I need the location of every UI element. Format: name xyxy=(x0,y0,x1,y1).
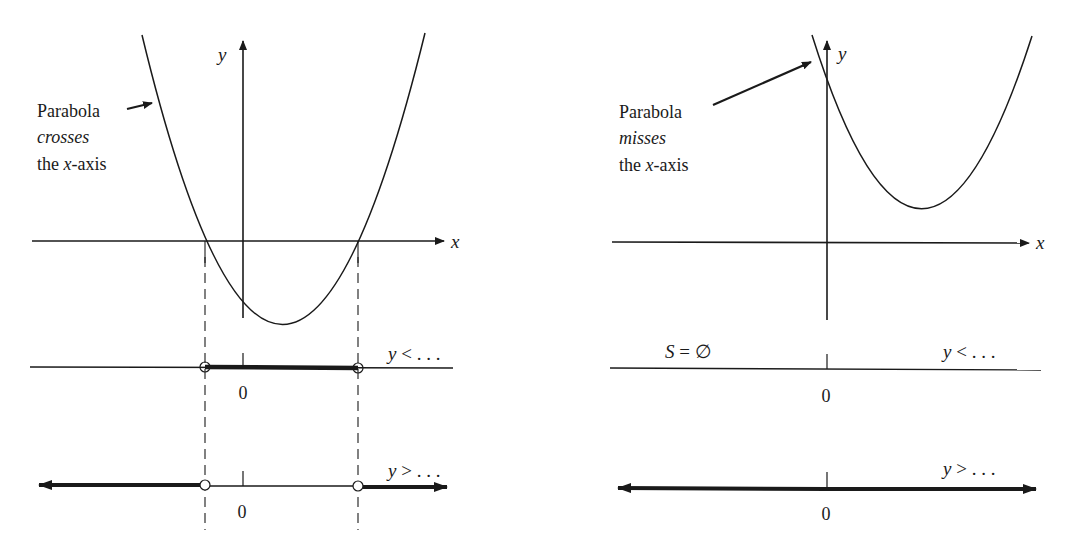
right-zero-label-2: 0 xyxy=(822,504,831,524)
right-number-line-greater-than: 0 y > . . . xyxy=(618,458,1036,524)
right-x-axis xyxy=(612,242,1029,243)
right-number-line-less-than: 0 S = ∅ y < . . . xyxy=(610,341,1041,406)
parabola-sign-diagram: x y Parabola crosses the x-axis 0 y < . … xyxy=(0,0,1069,545)
left-annotation-arrow xyxy=(127,103,152,109)
left-number-line-greater-than: 0 y > . . . xyxy=(39,460,447,522)
left-open-endpoint-4 xyxy=(353,481,363,491)
left-solution-interval xyxy=(205,367,358,368)
right-annotation-line1: Parabola xyxy=(619,102,682,122)
left-x-axis-label: x xyxy=(450,231,460,252)
right-y-axis-label: y xyxy=(836,43,847,64)
left-open-endpoint-3 xyxy=(200,480,210,490)
right-annotation-line2: misses xyxy=(619,128,666,148)
empty-set-label: S = ∅ xyxy=(665,341,712,362)
right-annotation-arrow xyxy=(713,62,811,105)
right-annotation-line3: the x-axis xyxy=(619,155,689,175)
right-solution-ray-left xyxy=(618,488,827,489)
left-zero-label-1: 0 xyxy=(239,383,248,403)
right-greater-than-label: y > . . . xyxy=(941,458,995,479)
left-y-axis-label: y xyxy=(216,44,227,65)
left-zero-label-2: 0 xyxy=(238,502,247,522)
left-annotation-line3: the x-axis xyxy=(37,154,107,174)
left-annotation-line2: crosses xyxy=(37,127,89,147)
left-greater-than-label: y > . . . xyxy=(386,460,440,481)
left-number-line-less-than: 0 y < . . . xyxy=(30,343,453,403)
right-zero-label-1: 0 xyxy=(822,386,831,406)
left-annotation-line1: Parabola xyxy=(37,101,100,121)
left-less-than-label: y < . . . xyxy=(386,343,440,364)
right-panel: x y Parabola misses the x-axis 0 S = ∅ y… xyxy=(610,35,1045,524)
right-x-axis-label: x xyxy=(1035,232,1045,253)
right-less-than-label: y < . . . xyxy=(941,341,995,362)
left-panel: x y Parabola crosses the x-axis 0 y < . … xyxy=(30,33,460,530)
left-parabola xyxy=(142,33,425,325)
